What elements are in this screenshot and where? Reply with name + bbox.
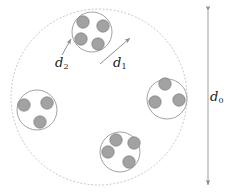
cluster-top (72, 12, 112, 52)
particle (110, 134, 122, 146)
label-d2: d2 (55, 56, 69, 71)
label-d0-subscript: 0 (218, 96, 223, 105)
particle (102, 146, 114, 158)
cluster-bottom (100, 132, 140, 172)
particle (149, 96, 161, 108)
label-d1-subscript: 1 (121, 62, 126, 71)
particle (41, 97, 53, 109)
cluster-right (147, 78, 187, 119)
particle (75, 33, 87, 45)
particle (18, 99, 30, 111)
particle (77, 16, 89, 28)
label-d0: d0 (210, 90, 224, 105)
d2-leader-arrow (62, 39, 71, 55)
particle-cluster-diagram (0, 0, 240, 195)
particle (34, 116, 46, 128)
particle (123, 156, 135, 168)
label-d1: d1 (113, 56, 127, 71)
particle (173, 94, 185, 106)
particle (128, 137, 140, 149)
cluster-left (17, 90, 57, 130)
particle (159, 78, 171, 90)
label-d2-subscript: 2 (63, 62, 68, 71)
particle (92, 38, 104, 50)
particle (97, 20, 109, 32)
